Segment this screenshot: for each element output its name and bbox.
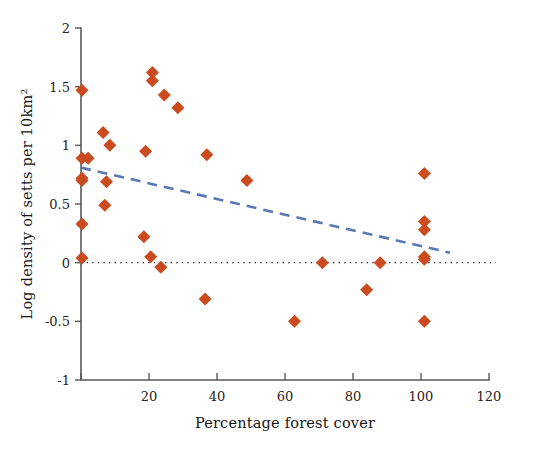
- data-point: [418, 315, 431, 328]
- x-tick-label-5: 100: [409, 389, 434, 404]
- data-point: [100, 175, 113, 188]
- y-tick-label-5: 1.5: [49, 80, 70, 95]
- data-point: [200, 148, 213, 161]
- data-point: [158, 88, 171, 101]
- data-point: [360, 283, 373, 296]
- x-tick-label-6: 120: [477, 389, 502, 404]
- x-tick-label-4: 80: [345, 389, 362, 404]
- y-tick-label-3: 0.5: [49, 197, 70, 212]
- trend-line-group: [81, 168, 450, 253]
- data-point: [288, 315, 301, 328]
- data-point: [76, 84, 89, 97]
- x-tick-label-1: 20: [141, 389, 158, 404]
- x-tick-label-3: 60: [277, 389, 294, 404]
- y-axis-title: Log density of setts per 10km²: [19, 89, 35, 320]
- x-axis-title: Percentage forest cover: [195, 415, 375, 431]
- y-tick-label-0: -1: [57, 373, 70, 388]
- axis-labels-group: -1-0.500.511.5220406080100120Percentage …: [19, 21, 501, 431]
- y-tick-label-6: 2: [62, 21, 70, 36]
- data-point: [76, 174, 89, 187]
- data-point: [316, 256, 329, 269]
- data-point: [98, 199, 111, 212]
- scatter-plot-figure: -1-0.500.511.5220406080100120Percentage …: [0, 0, 552, 453]
- plot-canvas: -1-0.500.511.5220406080100120Percentage …: [0, 0, 552, 453]
- data-point: [171, 101, 184, 114]
- data-point: [137, 230, 150, 243]
- data-point: [199, 293, 212, 306]
- data-point: [418, 223, 431, 236]
- data-point: [374, 256, 387, 269]
- data-point: [97, 126, 110, 139]
- y-tick-label-2: 0: [62, 256, 70, 271]
- x-tick-label-2: 40: [209, 389, 226, 404]
- y-tick-label-1: -0.5: [45, 314, 70, 329]
- data-point: [144, 250, 157, 263]
- data-point: [418, 167, 431, 180]
- axis-lines: [81, 28, 489, 380]
- data-point: [418, 253, 431, 266]
- data-point: [76, 217, 89, 230]
- data-point: [146, 74, 159, 87]
- data-point: [240, 174, 253, 187]
- trend-line: [81, 168, 450, 253]
- axes-group: [75, 28, 489, 380]
- data-point: [139, 145, 152, 158]
- y-tick-label-4: 1: [62, 138, 70, 153]
- data-point: [103, 139, 116, 152]
- data-points-group: [76, 66, 431, 328]
